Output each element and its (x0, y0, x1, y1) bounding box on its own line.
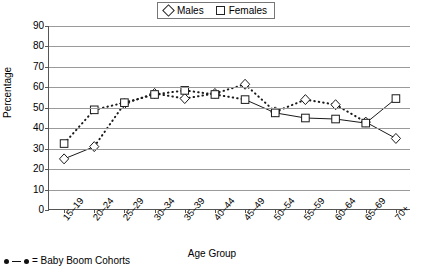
baby-boom-segment (215, 84, 245, 93)
diamond-marker-icon (391, 133, 400, 143)
gridline (49, 169, 410, 170)
y-tick-label: 20 (33, 164, 49, 174)
y-axis-title: Percentage (2, 67, 13, 118)
series-segment (245, 100, 275, 113)
square-marker-icon (271, 109, 279, 117)
series-segment (336, 119, 366, 123)
gridline (49, 26, 410, 27)
gridline (49, 128, 410, 129)
gridline (49, 190, 410, 191)
series-layer (49, 26, 411, 210)
gridline (49, 67, 410, 68)
legend-label-females: Females (229, 5, 267, 16)
plot-area: 908070605040302010015–1920–2425–2930–343… (48, 26, 410, 210)
dot-line-dot-icon-end (24, 259, 29, 264)
baby-boom-segment (94, 104, 124, 147)
y-tick-label: 0 (38, 205, 49, 215)
gridline (49, 87, 410, 88)
series-segment (305, 118, 335, 119)
gridline (49, 46, 410, 47)
y-tick-label: 40 (33, 123, 49, 133)
y-tick-label: 10 (33, 185, 49, 195)
gridline (49, 149, 410, 150)
legend-item-females: Females (216, 5, 267, 16)
square-marker-icon (241, 96, 249, 104)
square-marker-icon (121, 99, 129, 107)
y-tick-label: 30 (33, 144, 49, 154)
square-marker-icon (60, 140, 68, 148)
square-marker-icon (211, 91, 219, 99)
baby-boom-segment (215, 94, 245, 99)
square-marker-icon (332, 115, 340, 123)
legend-label-males: Males (177, 5, 204, 16)
series-segment (366, 122, 396, 138)
baby-boom-segment (155, 90, 185, 94)
legend-item-males: Males (164, 5, 204, 16)
dot-line-dot-icon (4, 259, 9, 264)
series-segment (366, 99, 396, 124)
footnote-label: = Baby Boom Cohorts (32, 255, 130, 267)
diamond-marker-icon (59, 154, 68, 164)
baby-boom-segment (64, 110, 94, 144)
square-marker-icon (302, 114, 310, 122)
square-marker-icon (362, 119, 370, 127)
footnote-line-icon (12, 261, 21, 262)
y-tick-label: 60 (33, 82, 49, 92)
square-marker-icon (216, 6, 225, 15)
square-marker-icon (151, 91, 159, 99)
baby-boom-footnote: = Baby Boom Cohorts (4, 255, 130, 267)
chart-legend: Males Females (157, 2, 275, 19)
baby-boom-segment (124, 94, 154, 102)
series-segment (275, 113, 305, 118)
chart-figure: Males Females Percentage 908070605040302… (0, 0, 424, 271)
diamond-marker-icon (301, 95, 310, 105)
y-tick-label: 80 (33, 41, 49, 51)
y-tick-label: 70 (33, 62, 49, 72)
diamond-marker-icon (180, 94, 189, 104)
y-tick-label: 50 (33, 103, 49, 113)
baby-boom-segment (275, 100, 305, 112)
diamond-marker-icon (162, 4, 175, 17)
square-marker-icon (392, 95, 400, 103)
gridline (49, 108, 410, 109)
y-tick-label: 90 (33, 21, 49, 31)
